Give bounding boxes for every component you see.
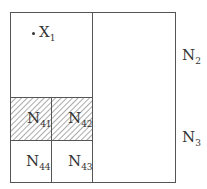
- region-label-n44: N44: [26, 154, 51, 172]
- region-label-n42: N42: [68, 111, 93, 129]
- region-label-n43: N43: [68, 154, 93, 172]
- region-label-n2: N2: [182, 48, 201, 66]
- region-label-n41: N41: [27, 111, 52, 129]
- point-label-x1: X1: [39, 25, 55, 43]
- point-marker-icon: [32, 32, 35, 35]
- region-label-n3: N3: [182, 130, 201, 148]
